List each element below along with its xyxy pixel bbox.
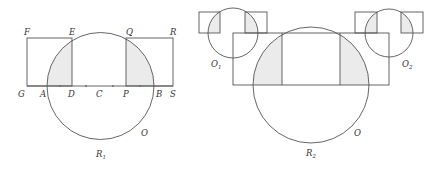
shaded-region-big-left	[233, 33, 282, 85]
figure-1: F E Q R G A D C P B S O R1	[18, 27, 177, 160]
tick-dot	[85, 85, 87, 87]
label-D: D	[67, 89, 75, 99]
label-Q: Q	[126, 27, 133, 37]
label-C: C	[96, 89, 103, 99]
label-F: F	[23, 27, 31, 37]
shaded-region-big-right	[340, 33, 389, 85]
shaded-region-o1	[199, 12, 267, 33]
label-O: O	[141, 128, 148, 138]
label-O1-main: O	[211, 59, 218, 69]
label-A: A	[39, 89, 46, 99]
label-E: E	[68, 27, 76, 37]
label-O2: O2	[402, 59, 413, 70]
label-O1-sub: 1	[218, 64, 222, 70]
figure-2: O1 O2 O R2	[199, 8, 423, 159]
label-O-big: O	[354, 128, 361, 138]
label-R2: R2	[305, 148, 316, 159]
label-R1: R1	[95, 149, 106, 160]
label-G: G	[18, 89, 25, 99]
label-O2-sub: 2	[408, 64, 413, 70]
label-B: B	[155, 89, 162, 99]
tick-dot	[139, 85, 141, 87]
label-O1: O1	[211, 59, 221, 70]
label-P: P	[122, 89, 129, 99]
label-S: S	[170, 89, 176, 99]
label-R: R	[169, 27, 177, 37]
label-O2-main: O	[402, 59, 409, 69]
tick-dot	[59, 85, 61, 87]
label-R2-sub: 2	[311, 153, 316, 159]
tick-dot	[112, 85, 114, 87]
label-R1-sub: 1	[102, 154, 106, 160]
geometry-diagram: F E Q R G A D C P B S O R1	[0, 0, 443, 172]
shaded-region-right	[126, 38, 173, 86]
